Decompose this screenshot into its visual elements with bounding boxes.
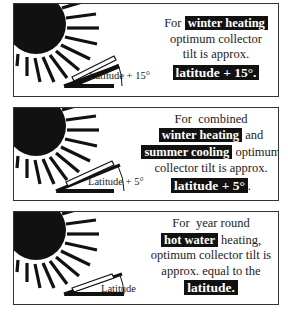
highlight-summer-cooling: summer cooling <box>141 145 232 159</box>
caption: For winter heating optimum collector til… <box>154 16 278 81</box>
panel-combined: Latitude + 5° For combined winter heatin… <box>13 107 279 201</box>
highlight-hot-water: hot water <box>161 233 218 247</box>
highlight-latitude-plus-5: latitude + 5° <box>171 178 248 193</box>
tilt-angle-label: Latitude + 5° <box>88 176 144 187</box>
highlight-latitude-plus-15: latitude + 15°. <box>173 65 260 80</box>
highlight-winter-heating: winter heating <box>185 16 268 30</box>
highlight-latitude: latitude. <box>184 280 238 295</box>
tilt-angle-label: Latitude + 15° <box>89 70 150 81</box>
panel-hot-water: Latitude For year round hot water heatin… <box>13 211 279 305</box>
caption: For combined winter heating and summer c… <box>140 112 279 195</box>
tilt-angle-label: Latitude <box>101 283 136 294</box>
panel-winter-heating: Latitude + 15° For winter heating optimu… <box>13 3 279 97</box>
caption: For year round hot water heating, optimu… <box>146 216 276 297</box>
highlight-winter-heating: winter heating <box>159 128 242 142</box>
